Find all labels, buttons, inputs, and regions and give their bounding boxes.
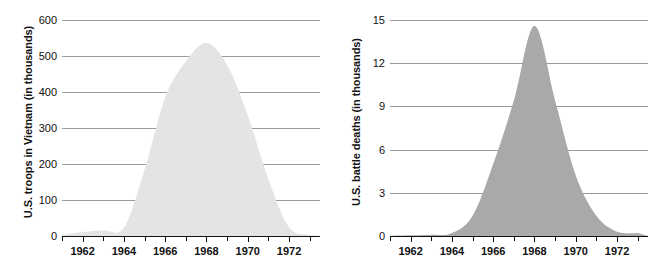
x-axis-tick [227, 236, 228, 241]
x-axis-tick [83, 236, 84, 242]
x-axis-tick-label: 1962 [398, 245, 422, 257]
x-axis-tick [638, 236, 639, 241]
y-axis-tick-label: 9 [379, 100, 385, 112]
x-axis-line [62, 236, 320, 237]
x-axis-tick [596, 236, 597, 241]
x-axis-tick [452, 236, 453, 242]
y-axis-tick-label: 100 [39, 194, 57, 206]
x-axis-tick [534, 236, 535, 242]
x-axis-tick [617, 236, 618, 242]
x-axis-tick [310, 236, 311, 241]
y-axis-tick-label: 3 [379, 187, 385, 199]
x-axis-tick [493, 236, 494, 242]
x-axis-tick [268, 236, 269, 241]
chart-panel-us-troops: U.S. troops in Vietnam (in thousands) 60… [0, 0, 328, 268]
x-axis-tick [576, 236, 577, 242]
x-axis-line [390, 236, 648, 237]
area-fill [390, 26, 648, 236]
two-panel-area-chart-figure: U.S. troops in Vietnam (in thousands) 60… [0, 0, 657, 268]
y-axis-tick-label: 200 [39, 158, 57, 170]
y-axis-tick-label: 500 [39, 50, 57, 62]
y-axis-title-deaths: U.S. battle deaths (in thousands) [346, 8, 366, 236]
y-axis-tick-label: 400 [39, 86, 57, 98]
x-axis-tick [555, 236, 556, 241]
area-series [62, 20, 320, 236]
x-axis-tick-label: 1968 [522, 245, 546, 257]
y-axis-title-troops: U.S. troops in Vietnam (in thousands) [18, 8, 38, 236]
x-axis-tick-label: 1966 [481, 245, 505, 257]
x-axis-tick-label: 1962 [70, 245, 94, 257]
x-axis-tick [248, 236, 249, 242]
x-axis-tick [514, 236, 515, 241]
x-axis-tick-label: 1970 [564, 245, 588, 257]
plot-area-deaths: 15129630196219641966196819701972 [390, 20, 648, 236]
y-axis-tick-label: 12 [373, 57, 385, 69]
x-axis-tick [145, 236, 146, 241]
chart-panel-us-battle-deaths: U.S. battle deaths (in thousands) 151296… [328, 0, 656, 268]
x-axis-tick [124, 236, 125, 242]
y-axis-tick-label: 300 [39, 122, 57, 134]
plot-area-troops: 6005004003002001000196219641966196819701… [62, 20, 320, 236]
x-axis-tick [62, 236, 63, 241]
y-axis-tick-label: 15 [373, 14, 385, 26]
x-axis-tick-label: 1968 [194, 245, 218, 257]
x-axis-tick [103, 236, 104, 241]
x-axis-tick-label: 1966 [153, 245, 177, 257]
x-axis-tick-label: 1970 [236, 245, 260, 257]
x-axis-tick-label: 1972 [277, 245, 301, 257]
x-axis-tick [289, 236, 290, 242]
x-axis-tick [473, 236, 474, 241]
x-axis-tick [390, 236, 391, 241]
y-axis-tick-label: 0 [379, 230, 385, 242]
x-axis-tick [165, 236, 166, 242]
x-axis-tick [431, 236, 432, 241]
x-axis-tick [186, 236, 187, 241]
area-series [390, 20, 648, 236]
x-axis-tick [411, 236, 412, 242]
y-axis-tick-label: 0 [51, 230, 57, 242]
x-axis-tick-label: 1964 [112, 245, 136, 257]
x-axis-tick-label: 1964 [440, 245, 464, 257]
y-axis-tick-label: 600 [39, 14, 57, 26]
x-axis-tick-label: 1972 [605, 245, 629, 257]
area-fill [62, 43, 320, 236]
x-axis-tick [206, 236, 207, 242]
y-axis-tick-label: 6 [379, 144, 385, 156]
